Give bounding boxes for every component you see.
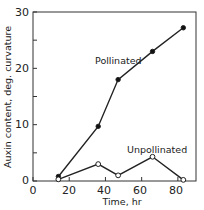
data-point-pollinated [150, 49, 154, 53]
data-point-unpollinated [96, 162, 101, 167]
xtick-20: 20 [62, 184, 76, 197]
data-point-unpollinated [150, 154, 155, 159]
data-point-pollinated [181, 26, 185, 30]
data-point-unpollinated [56, 177, 61, 182]
series-line-unpollinated [58, 157, 183, 180]
auxin-chart: 30 20 10 0 0 20 40 60 80 Time, hr Auxin … [0, 0, 204, 210]
pollinated-label: Pollinated [95, 55, 142, 66]
series-group [56, 26, 186, 183]
unpollinated-label: Unpollinated [127, 144, 187, 155]
ytick-20: 20 [15, 62, 29, 75]
x-axis-label: Time, hr [101, 196, 141, 207]
ytick-30: 30 [15, 6, 29, 19]
ytick-0: 0 [22, 174, 29, 187]
ytick-10: 10 [15, 118, 29, 131]
axes [33, 12, 178, 181]
xtick-0: 0 [30, 184, 37, 197]
data-point-pollinated [96, 124, 100, 128]
data-point-unpollinated [181, 177, 186, 182]
data-point-pollinated [116, 77, 120, 81]
xtick-80: 80 [169, 184, 183, 197]
data-point-unpollinated [116, 173, 121, 178]
y-axis-label: Auxin content, deg. curvature [2, 26, 13, 168]
